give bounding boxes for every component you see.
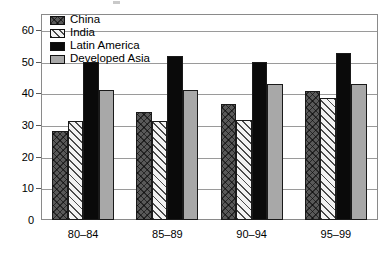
bar-india-80-84 [68,121,84,221]
x-tick-label: 95–99 [321,228,352,240]
bar-group [294,14,378,220]
bar-india-95-99 [320,98,336,220]
legend-swatch-latin-america [50,42,65,51]
y-tick-label: 50 [22,56,34,67]
legend: China India Latin America Developed Asia [48,13,153,68]
y-tick-label: 40 [22,88,34,99]
bar-latin-america-95-99 [336,53,352,220]
y-tick-label: 60 [22,24,34,35]
bar-india-85-89 [152,121,168,221]
bar-chart: 0102030405060 80–8485–8990–9495–99 China… [0,0,387,256]
bar-china-85-89 [136,112,152,220]
y-tick-label: 30 [22,119,34,130]
bar-developed-asia-90-94 [267,84,283,220]
legend-label-india: India [70,27,95,39]
x-tick-label: 90–94 [236,228,267,240]
legend-item: India [50,27,150,39]
x-tick-label: 80–84 [68,228,99,240]
x-tick-label: 85–89 [152,228,183,240]
bar-developed-asia-95-99 [351,84,367,220]
y-tick-label: 0 [28,215,34,226]
bar-china-80-84 [52,131,68,220]
y-axis: 0102030405060 [0,0,41,221]
bar-latin-america-80-84 [83,62,99,220]
bar-developed-asia-85-89 [183,90,199,220]
legend-label-latin-america: Latin America [70,40,140,52]
legend-item: Developed Asia [50,53,150,65]
legend-item: Latin America [50,40,150,52]
bar-china-95-99 [305,91,321,220]
legend-swatch-china [50,16,65,25]
bar-latin-america-90-94 [252,62,268,220]
bar-india-90-94 [236,120,252,220]
legend-label-developed-asia: Developed Asia [70,53,150,65]
legend-label-china: China [70,14,100,26]
y-tick-label: 20 [22,151,34,162]
bar-china-90-94 [221,104,237,220]
y-tick-label: 10 [22,183,34,194]
bar-latin-america-85-89 [167,56,183,220]
bar-developed-asia-80-84 [99,90,115,220]
legend-item: China [50,14,150,26]
legend-swatch-india [50,29,65,38]
x-axis: 80–8485–8990–9495–99 [41,222,378,244]
scan-artifact [113,1,120,4]
bar-group [210,14,294,220]
legend-swatch-developed-asia [50,55,65,64]
